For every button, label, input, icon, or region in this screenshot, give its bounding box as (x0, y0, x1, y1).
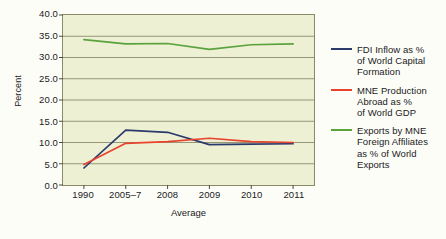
legend-label-line: Abroad as % (357, 96, 443, 107)
y-tick-label: 35.0 (26, 31, 58, 41)
x-axis-title: Average (62, 207, 315, 218)
y-tick-label: 5.0 (26, 160, 58, 170)
chart-figure: Percent 40.035.030.025.020.015.010.05.00… (0, 0, 446, 239)
series-line (84, 138, 293, 164)
x-axis-tick-labels: 19902005–72008200920102011 (62, 190, 315, 204)
legend-label-line: Foreign Affiliates (357, 136, 443, 147)
y-tick-label: 15.0 (26, 117, 58, 127)
data-lines (63, 15, 314, 185)
legend-entry[interactable]: FDI Inflow as %of World CapitalFormation (331, 44, 443, 78)
legend-label-line: of World Capital (357, 55, 443, 66)
x-tick-label: 2011 (264, 190, 324, 200)
y-tick-label: 30.0 (26, 52, 58, 62)
legend-color-swatch (331, 129, 352, 131)
legend-entry[interactable]: Exports by MNEForeign Affiliatesas % of … (331, 125, 443, 170)
chart-legend: FDI Inflow as %of World CapitalFormation… (331, 44, 443, 177)
series-line (84, 40, 293, 50)
legend-label-line: Exports (357, 159, 443, 170)
legend-label-line: as % of World (357, 148, 443, 159)
legend-label-line: Exports by MNE (357, 125, 443, 136)
legend-entry[interactable]: MNE ProductionAbroad as %of World GDP (331, 85, 443, 119)
y-axis-tick-labels: 40.035.030.025.020.015.010.05.00.0 (22, 0, 58, 239)
plot-area (62, 14, 315, 186)
legend-color-swatch (331, 48, 352, 50)
y-tick-label: 40.0 (26, 9, 58, 19)
legend-label-line: MNE Production (357, 85, 443, 96)
legend-label-line: of World GDP (357, 107, 443, 118)
y-tick-label: 25.0 (26, 74, 58, 84)
legend-color-swatch (331, 89, 352, 91)
y-tick-label: 20.0 (26, 95, 58, 105)
legend-label-line: FDI Inflow as % (357, 44, 443, 55)
y-tick-label: 10.0 (26, 138, 58, 148)
legend-label-line: Formation (357, 66, 443, 77)
